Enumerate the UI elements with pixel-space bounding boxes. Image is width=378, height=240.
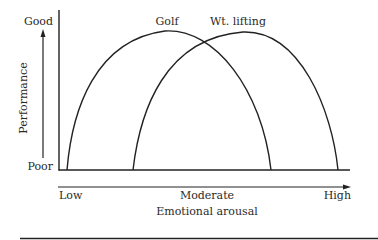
x-tick-low: Low: [59, 189, 83, 202]
wt-lifting-label: Wt. lifting: [210, 15, 266, 28]
golf-curve: [67, 31, 271, 170]
performance-arrow-head-icon: [41, 29, 46, 37]
wt-lifting-curve: [133, 32, 338, 170]
y-tick-poor: Poor: [28, 160, 54, 173]
y-axis-title: Performance: [17, 62, 30, 133]
x-axis-title: Emotional arousal: [156, 205, 258, 218]
y-tick-good: Good: [24, 15, 53, 28]
x-tick-high: High: [324, 189, 351, 202]
x-tick-moderate: Moderate: [180, 189, 234, 202]
golf-label: Golf: [156, 15, 180, 28]
arousal-performance-diagram: Good Poor Performance Golf Wt. lifting L…: [0, 0, 378, 240]
